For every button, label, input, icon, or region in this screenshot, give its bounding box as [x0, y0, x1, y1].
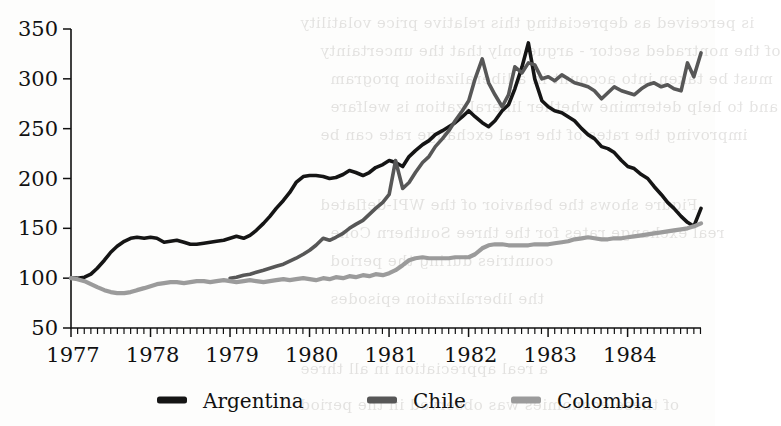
y-tick-label: 100 — [18, 266, 58, 290]
data-series-group — [71, 43, 701, 293]
y-tick-label: 350 — [18, 17, 58, 41]
x-tick-label: 1980 — [285, 343, 338, 367]
y-axis-ticks — [63, 29, 71, 328]
x-tick-label: 1979 — [205, 343, 258, 367]
series-line-colombia — [71, 223, 701, 293]
legend-swatch-argentina — [157, 397, 187, 404]
y-axis-tick-labels: 50100150200250300350 — [18, 17, 58, 340]
series-line-argentina — [71, 43, 701, 278]
legend-swatch-chile — [367, 397, 397, 404]
chart-legend: ArgentinaChileColombia — [157, 389, 653, 413]
x-axis-tick-labels: 19771978197919801981198219831984 — [46, 343, 656, 367]
y-tick-label: 50 — [31, 316, 58, 340]
x-tick-label: 1978 — [126, 343, 179, 367]
legend-label-colombia: Colombia — [557, 389, 653, 413]
x-tick-label: 1982 — [444, 343, 497, 367]
y-tick-label: 300 — [18, 67, 58, 91]
x-tick-label: 1984 — [603, 343, 656, 367]
x-tick-label: 1981 — [364, 343, 417, 367]
y-tick-label: 250 — [18, 117, 58, 141]
x-tick-label: 1983 — [524, 343, 577, 367]
legend-label-chile: Chile — [413, 389, 466, 413]
legend-label-argentina: Argentina — [202, 389, 304, 413]
x-axis-ticks — [71, 328, 700, 337]
x-tick-label: 1977 — [46, 343, 99, 367]
y-tick-label: 200 — [18, 167, 58, 191]
legend-swatch-colombia — [511, 397, 541, 404]
y-tick-label: 150 — [18, 216, 58, 240]
